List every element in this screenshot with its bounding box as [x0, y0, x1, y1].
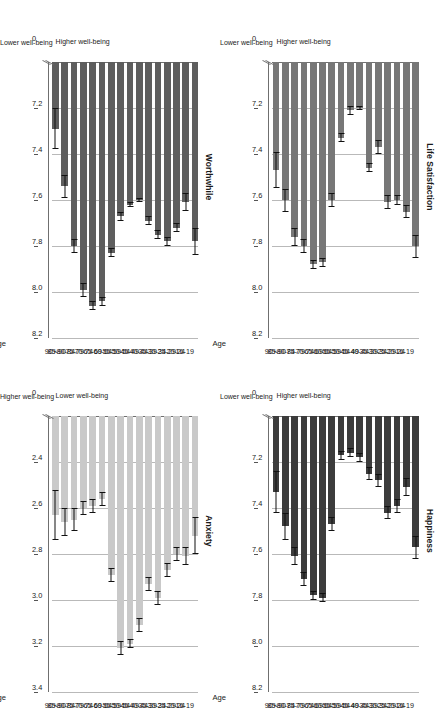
error-bar-cap: [80, 283, 86, 284]
error-bar-cap: [310, 599, 316, 600]
error-bar-cap: [292, 228, 298, 229]
error-bar-cap: [348, 106, 354, 107]
error-bar: [294, 547, 295, 565]
bar-row: [328, 62, 335, 338]
error-bar-cap: [329, 193, 335, 194]
error-bar-cap: [99, 297, 105, 298]
error-bar: [350, 106, 351, 115]
error-bar-cap: [385, 195, 391, 196]
error-bar: [341, 133, 342, 142]
bar: [117, 62, 124, 216]
bar: [164, 62, 171, 241]
bar-row: [136, 416, 143, 692]
bar-row: [319, 416, 326, 692]
bar: [282, 62, 289, 200]
axis-low-note-text: Lower well-being: [221, 39, 274, 46]
bar: [145, 416, 152, 584]
bar-row: [108, 62, 115, 338]
error-bar-cap: [394, 195, 400, 196]
bar: [99, 416, 106, 499]
error-bar-cap: [282, 211, 288, 212]
panel-grid: Life Satisfaction07.27.47.67.88.08.216-1…: [0, 0, 441, 708]
bar-row: [310, 416, 317, 692]
bar-row: [412, 416, 419, 692]
error-bar-cap: [146, 224, 152, 225]
error-bar-cap: [174, 547, 180, 548]
error-bar-cap: [146, 577, 152, 578]
bar-row: [192, 62, 199, 338]
error-bar-cap: [108, 256, 114, 257]
value-tick-label: 7.4: [32, 145, 42, 154]
bar-row: [155, 416, 162, 692]
error-bar-cap: [375, 486, 381, 487]
bar: [384, 62, 391, 202]
panel-title: Happiness: [425, 354, 435, 708]
value-tick-label: 7.8: [32, 237, 42, 246]
axis-high-note-text: Higher well-being: [277, 392, 331, 400]
bar-row: [127, 416, 134, 692]
error-bar: [387, 506, 388, 520]
tick-mark: [34, 462, 38, 463]
error-bar-cap: [183, 193, 189, 194]
bar-row: [394, 62, 401, 338]
error-bar-cap: [394, 204, 400, 205]
error-bar-cap: [301, 252, 307, 253]
panel-anxiety: Anxiety02.42.62.83.03.23.416-1920-2425-2…: [0, 354, 221, 708]
error-bar-cap: [53, 148, 59, 149]
bar-row: [384, 62, 391, 338]
tick-mark: [34, 646, 38, 647]
error-bar: [285, 189, 286, 212]
bar-row: [356, 416, 363, 692]
value-tick-label: 3.2: [32, 637, 42, 646]
error-bar-cap: [394, 512, 400, 513]
error-bar-cap: [338, 459, 344, 460]
bar-row: [117, 62, 124, 338]
bar: [375, 62, 382, 147]
bar: [356, 416, 363, 457]
bar: [282, 416, 289, 526]
error-bar-cap: [118, 220, 124, 221]
error-bar: [275, 471, 276, 512]
error-bar-cap: [127, 206, 133, 207]
bar: [117, 416, 124, 648]
error-bar-cap: [108, 248, 114, 249]
error-bar-cap: [320, 258, 326, 259]
bar: [366, 62, 373, 168]
value-tick-label: 7.2: [32, 99, 42, 108]
bar-row: [273, 416, 280, 692]
error-bar-cap: [183, 547, 189, 548]
error-bar: [387, 195, 388, 209]
bar-row: [99, 62, 106, 338]
error-bar: [139, 618, 140, 632]
panel-title: Life Satisfaction: [425, 0, 435, 354]
bar: [127, 416, 134, 644]
age-axis-title-text: Age: [0, 693, 6, 702]
error-bar-cap: [62, 535, 68, 536]
error-bar-cap: [164, 576, 170, 577]
value-tick-label: 8.0: [32, 283, 42, 292]
error-bar-cap: [273, 512, 279, 513]
error-bar: [397, 195, 398, 204]
error-bar-cap: [80, 296, 86, 297]
error-bar-cap: [155, 591, 161, 592]
bar-row: [89, 416, 96, 692]
bar-row: [71, 62, 78, 338]
bar-row: [192, 416, 199, 692]
age-axis-title-text: Age: [0, 339, 6, 348]
error-bar-cap: [192, 517, 198, 518]
error-bar-cap: [71, 508, 77, 509]
bar: [61, 416, 68, 522]
error-bar: [102, 297, 103, 306]
value-tick-label: 8.2: [253, 329, 263, 338]
error-bar-cap: [320, 601, 326, 602]
error-bar-cap: [53, 108, 59, 109]
bar: [127, 62, 134, 205]
error-bar: [406, 205, 407, 219]
error-bar-cap: [338, 133, 344, 134]
bar: [412, 62, 419, 246]
bar-row: [182, 62, 189, 338]
error-bar-cap: [338, 141, 344, 142]
tick-mark: [255, 246, 259, 247]
error-bar-cap: [310, 268, 316, 269]
error-bar: [111, 568, 112, 582]
